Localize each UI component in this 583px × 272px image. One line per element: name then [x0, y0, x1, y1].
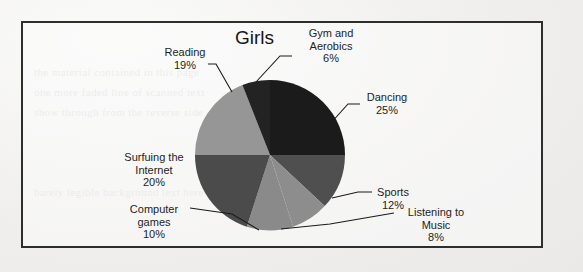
pie-chart: Girls Gym and Aerobics 6% Reading 19% Da…: [0, 0, 583, 272]
slice-label-dancing: Dancing 25%: [352, 91, 422, 116]
scanned-page: the material contained in this page one …: [0, 0, 583, 272]
slice-label-percent: 19%: [150, 59, 220, 72]
slice-label-line2: games: [137, 216, 170, 228]
slice-label-line2: Music: [422, 219, 451, 231]
slice-label-line1: Sports: [377, 186, 409, 198]
slice-label-line1: Gym and: [309, 27, 354, 39]
slice-label-percent: 20%: [112, 176, 196, 189]
slice-label-percent: 25%: [352, 104, 422, 117]
slice-label-listening-to-music: Listening to Music 8%: [394, 206, 478, 244]
slice-label-percent: 6%: [294, 52, 368, 65]
slice-label-percent: 10%: [114, 228, 194, 241]
slice-label-computer-games: Computer games 10%: [114, 203, 194, 241]
slice-label-gym-and-aerobics: Gym and Aerobics 6%: [294, 27, 368, 65]
pie-slice-dancing[interactable]: [270, 80, 345, 155]
slice-label-reading: Reading 19%: [150, 46, 220, 71]
slice-label-line1: Surfuing the: [124, 151, 183, 163]
pie-chart-svg: [0, 0, 583, 272]
slice-label-line1: Computer: [130, 203, 178, 215]
chart-title: Girls: [235, 27, 274, 48]
slice-label-line1: Dancing: [367, 91, 407, 103]
slice-label-line2: Internet: [135, 164, 172, 176]
slice-label-surfing-the-internet: Surfuing the Internet 20%: [112, 151, 196, 189]
slice-label-line2: Aerobics: [310, 40, 353, 52]
slice-label-line1: Listening to: [408, 206, 464, 218]
slice-label-percent: 8%: [394, 231, 478, 244]
slice-label-line1: Reading: [165, 46, 206, 58]
leader-line-gym: [256, 56, 292, 82]
